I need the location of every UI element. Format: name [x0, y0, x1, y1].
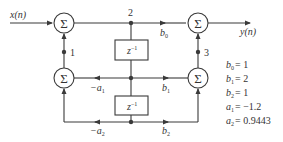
coef-a2: a2= 0.9443 — [226, 115, 271, 127]
gain-b2: b2 — [162, 125, 170, 137]
gain-b0: b0 — [160, 27, 168, 39]
junction-middle — [129, 76, 133, 80]
junction-node-1 — [62, 50, 66, 54]
sum-symbol: Σ — [194, 16, 202, 31]
gain-minus-a1: −a1 — [90, 82, 105, 94]
coef-b0: b0= 1 — [226, 59, 248, 71]
junction-bottom — [129, 120, 133, 124]
gain-minus-a2: −a2 — [90, 125, 105, 137]
sum-symbol: Σ — [194, 71, 202, 86]
input-label: x(n) — [9, 9, 27, 21]
coef-b2: b2= 1 — [226, 87, 248, 99]
junction-node-2 — [129, 21, 133, 25]
output-label: y(n) — [239, 26, 257, 38]
node-label-1: 1 — [70, 47, 75, 58]
coefficient-list: b0= 1 b1= 2 b2= 1 a1= −1.2 a2= 0.9443 — [226, 59, 271, 127]
gain-b1: b1 — [162, 82, 170, 94]
coef-a1: a1= −1.2 — [226, 101, 261, 113]
filter-block-diagram: Σ Σ Σ Σ z−1 z−1 x(n) y(n) 2 1 3 b0 b1 b2… — [0, 0, 283, 142]
node-label-3: 3 — [204, 47, 209, 58]
junction-node-3 — [196, 50, 200, 54]
coef-b1: b1= 2 — [226, 73, 248, 85]
sum-symbol: Σ — [60, 71, 68, 86]
sum-symbol: Σ — [60, 16, 68, 31]
node-label-2: 2 — [128, 7, 133, 18]
